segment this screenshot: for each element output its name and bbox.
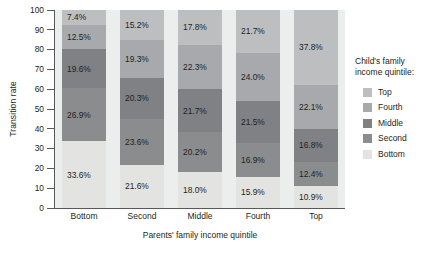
y-axis-tick-label: 0 (23, 204, 44, 212)
bar-segment-label: 19.6% (62, 65, 91, 73)
x-axis-tick-label: Top (284, 212, 348, 221)
legend-swatch (363, 119, 372, 128)
bar-segment-label: 18.0% (178, 186, 207, 194)
bar-segment[interactable]: 26.9% (62, 88, 106, 141)
legend-item-label: Second (378, 134, 407, 143)
y-axis-tick-label: 80 (23, 45, 44, 53)
bar-segment[interactable]: 22.1% (294, 85, 338, 129)
legend-title-line-1: Child's family (355, 56, 433, 67)
y-axis-tick (47, 69, 54, 70)
bar-segment[interactable]: 10.9% (294, 186, 338, 208)
x-axis-tick-label: Middle (168, 212, 232, 221)
bar-segment[interactable]: 21.7% (178, 89, 222, 132)
chart-root: Transition rate 1009080706050403020100 3… (0, 0, 435, 259)
bar-segment[interactable]: 21.5% (236, 101, 280, 144)
x-axis-tick-label: Bottom (52, 212, 116, 221)
bar-segment[interactable]: 18.0% (178, 172, 222, 208)
bar-segment[interactable]: 16.9% (236, 143, 280, 176)
legend-title-line-2: income quintile: (355, 67, 433, 78)
bar-segment-label: 26.9% (62, 111, 91, 119)
bar-segment[interactable]: 20.3% (120, 78, 164, 118)
x-axis-tick-label: Fourth (226, 212, 290, 221)
y-axis-tick (47, 49, 54, 50)
bar-segment-label: 16.8% (294, 141, 323, 149)
bar-segment-label: 12.5% (62, 33, 91, 41)
legend-item[interactable]: Fourth (355, 100, 435, 116)
y-axis-tick (47, 208, 54, 209)
y-axis-tick (47, 89, 54, 90)
bar-segment-label: 16.9% (236, 156, 265, 164)
legend-item-label: Top (378, 88, 392, 97)
legend-swatch (363, 150, 372, 159)
x-axis-tick-label: Second (110, 212, 174, 221)
bar-segment[interactable]: 33.6% (62, 141, 106, 208)
bar-column[interactable]: 10.9%12.4%16.8%22.1%37.8% (294, 10, 338, 208)
bar-segment[interactable]: 24.0% (236, 53, 280, 101)
y-axis-tick-label: 20 (23, 164, 44, 172)
legend-swatch (363, 134, 372, 143)
y-axis-tick-label: 10 (23, 184, 44, 192)
bar-segment-label: 10.9% (294, 193, 323, 201)
bar-segment-label: 23.6% (120, 138, 149, 146)
y-axis-tick-label: 30 (23, 144, 44, 152)
bar-segment-label: 21.5% (236, 118, 265, 126)
legend-item-label: Bottom (378, 150, 405, 159)
bar-segment[interactable]: 17.8% (178, 10, 222, 45)
bar-segment-label: 19.3% (120, 55, 149, 63)
legend-item[interactable]: Second (355, 131, 435, 147)
y-axis-tick (47, 188, 54, 189)
bar-segment-label: 22.3% (178, 63, 207, 71)
bar-segment[interactable]: 19.6% (62, 49, 106, 88)
y-axis-tick (47, 29, 54, 30)
bar-segment-label: 21.7% (236, 27, 265, 35)
bar-segment-label: 15.2% (120, 21, 149, 29)
bar-column[interactable]: 18.0%20.2%21.7%22.3%17.8% (178, 10, 222, 208)
bar-segment[interactable]: 22.3% (178, 45, 222, 89)
y-axis-tick-label: 60 (23, 85, 44, 93)
y-axis-tick (47, 128, 54, 129)
legend: Child's family income quintile: TopFourt… (355, 56, 435, 162)
bar-segment[interactable]: 15.2% (120, 10, 164, 40)
bar-segment[interactable]: 37.8% (294, 10, 338, 85)
legend-title: Child's family income quintile: (355, 56, 433, 78)
y-axis-tick (47, 168, 54, 169)
legend-swatch (363, 103, 372, 112)
bar-segment[interactable]: 21.7% (236, 10, 280, 53)
bar-segment-label: 37.8% (294, 43, 323, 51)
legend-item[interactable]: Middle (355, 116, 435, 132)
legend-item[interactable]: Bottom (355, 147, 435, 163)
bar-segment-label: 20.2% (178, 148, 207, 156)
bar-segment[interactable]: 23.6% (120, 119, 164, 166)
y-axis-line (54, 10, 55, 209)
bar-segment-label: 12.4% (294, 170, 323, 178)
y-axis-tick-label: 40 (23, 125, 44, 133)
bar-segment-label: 24.0% (236, 73, 265, 81)
bar-segment-label: 22.1% (294, 103, 323, 111)
bar-segment[interactable]: 19.3% (120, 40, 164, 78)
bar-segment-label: 33.6% (62, 171, 91, 179)
x-axis-title: Parents' family income quintile (55, 230, 345, 240)
y-axis-title: Transition rate (8, 49, 18, 169)
legend-swatch (363, 88, 372, 97)
bar-segment-label: 21.6% (120, 182, 149, 190)
bar-segment[interactable]: 20.2% (178, 132, 222, 172)
bar-segment-label: 21.7% (178, 107, 207, 115)
bar-column[interactable]: 15.9%16.9%21.5%24.0%21.7% (236, 10, 280, 208)
y-axis-tick-label: 50 (23, 105, 44, 113)
bar-column[interactable]: 33.6%26.9%19.6%12.5%7.4% (62, 10, 106, 208)
bar-segment[interactable]: 7.4% (62, 10, 106, 25)
bar-segment[interactable]: 12.5% (62, 25, 106, 50)
y-axis-tick-label: 100 (23, 6, 44, 14)
legend-item-label: Fourth (378, 103, 403, 112)
bar-segment-label: 20.3% (120, 94, 149, 102)
y-axis-tick-label: 70 (23, 65, 44, 73)
bar-segment[interactable]: 21.6% (120, 165, 164, 208)
bar-segment[interactable]: 12.4% (294, 162, 338, 187)
legend-items: TopFourthMiddleSecondBottom (355, 84, 435, 162)
y-axis-tick-label: 90 (23, 26, 44, 34)
y-axis-tick (47, 10, 54, 11)
bar-segment[interactable]: 15.9% (236, 177, 280, 208)
legend-item[interactable]: Top (355, 84, 435, 100)
bar-segment[interactable]: 16.8% (294, 129, 338, 162)
bar-column[interactable]: 21.6%23.6%20.3%19.3%15.2% (120, 10, 164, 208)
